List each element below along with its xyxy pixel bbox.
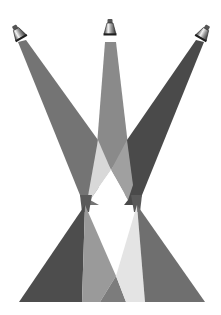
right-beam-lower — [137, 205, 205, 302]
lamp-center-rim — [104, 34, 117, 36]
lower-beams — [19, 205, 205, 302]
spotlight-illustration — [0, 0, 221, 315]
lamp-center — [104, 19, 117, 36]
lamp-center-shade — [104, 23, 116, 34]
right-beam-upper — [124, 40, 204, 205]
left-beam-lower — [19, 205, 85, 302]
left-beam-upper — [18, 40, 99, 205]
lamp-right — [195, 22, 214, 42]
lamp-left — [8, 22, 27, 42]
